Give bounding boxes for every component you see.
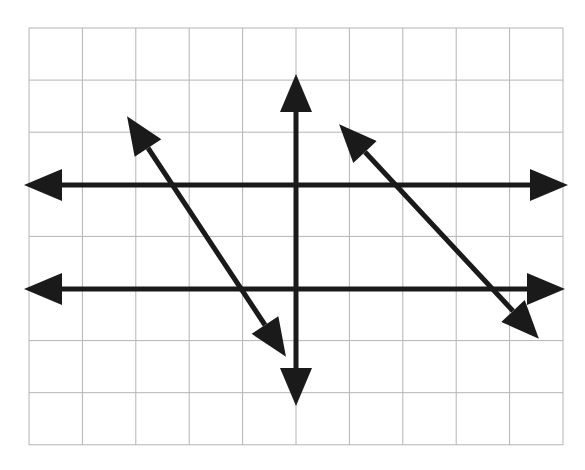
figure-container [0, 0, 585, 470]
grid-figure-svg [0, 0, 585, 470]
figure-background [0, 0, 585, 470]
